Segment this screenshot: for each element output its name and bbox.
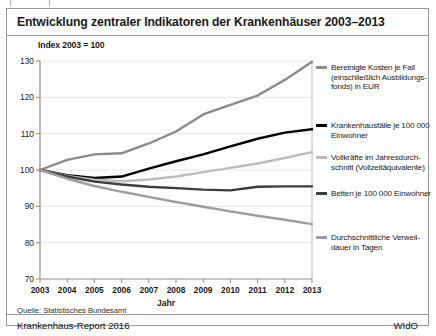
y-axis-tick-120: 120 — [12, 92, 34, 102]
y-axis-tick-110: 110 — [12, 129, 34, 139]
figure-title-bar: Entwicklung zentraler Indikatoren der Kr… — [7, 9, 428, 36]
figure-card: Entwicklung zentraler Indikatoren der Kr… — [6, 8, 429, 326]
publisher-name: WIdO — [393, 320, 418, 331]
figure-footer: Krankenhaus-Report 2016 WIdO — [7, 314, 428, 335]
y-axis-tick-70: 70 — [12, 274, 34, 284]
page-top-stub — [10, 0, 50, 6]
plot-area: Bereinigte Kosten je Fall(einschließlich… — [7, 36, 430, 292]
report-name: Krankenhaus-Report 2016 — [17, 320, 130, 331]
y-axis-tick-90: 90 — [12, 201, 34, 211]
y-axis-tick-130: 130 — [12, 56, 34, 66]
y-axis-tick-100: 100 — [12, 165, 34, 175]
page-title: Entwicklung zentraler Indikatoren der Kr… — [17, 15, 385, 29]
y-axis-tick-80: 80 — [12, 238, 34, 248]
x-axis-title: Jahr — [157, 298, 175, 308]
x-axis-tick-2013: 2013 — [295, 285, 329, 295]
line-chart — [7, 36, 430, 292]
